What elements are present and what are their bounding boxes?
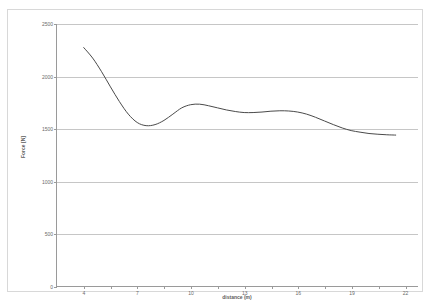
x-axis-title: distance (m) bbox=[56, 295, 418, 300]
plot-area: 05001000150020002500 471013161922 bbox=[56, 24, 418, 287]
x-axis-tick-mark bbox=[218, 286, 219, 289]
x-axis-tick-mark bbox=[137, 286, 138, 289]
y-axis-tick-label: 2000 bbox=[42, 74, 53, 79]
x-axis-tick-mark bbox=[84, 286, 85, 289]
force-line-series bbox=[84, 48, 396, 136]
y-axis-title: Force [N] bbox=[21, 136, 26, 158]
x-axis-tick-mark bbox=[164, 286, 165, 289]
y-axis-tick-mark bbox=[54, 287, 57, 288]
y-axis-tick-label: 0 bbox=[50, 285, 53, 290]
x-axis-tick-mark bbox=[406, 286, 407, 289]
x-axis-tick-mark bbox=[111, 286, 112, 289]
y-axis-tick-label: 1500 bbox=[42, 127, 53, 132]
y-axis-tick-label: 1000 bbox=[42, 179, 53, 184]
x-axis-tick-mark bbox=[272, 286, 273, 289]
x-axis-tick-mark bbox=[379, 286, 380, 289]
chart-frame: Force [N] 05001000150020002500 471013161… bbox=[7, 9, 423, 292]
x-axis-tick-mark bbox=[352, 286, 353, 289]
x-axis-tick-mark bbox=[245, 286, 246, 289]
x-axis-tick-mark bbox=[325, 286, 326, 289]
x-axis-tick-mark bbox=[191, 286, 192, 289]
y-axis-tick-label: 2500 bbox=[42, 22, 53, 27]
series-layer bbox=[57, 24, 418, 286]
x-axis-tick-mark bbox=[298, 286, 299, 289]
y-axis-tick-label: 500 bbox=[45, 232, 53, 237]
